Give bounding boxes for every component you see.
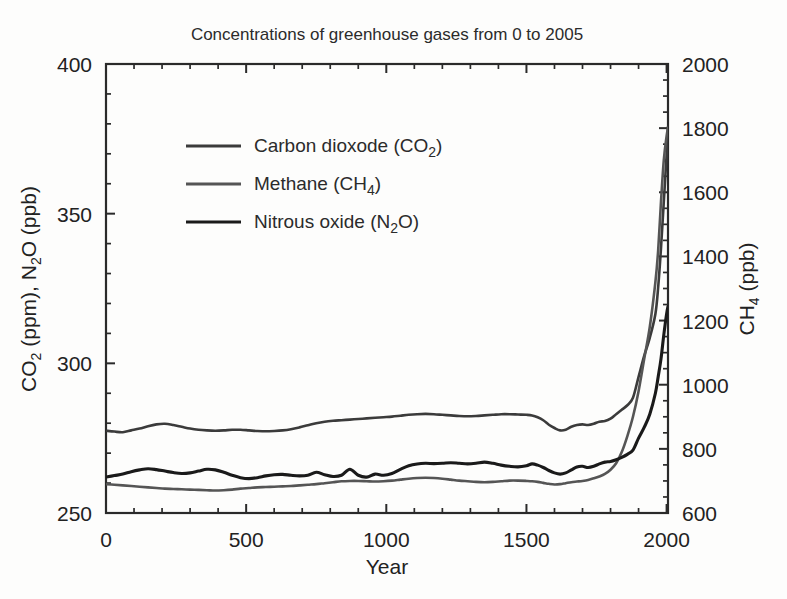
y-axis-right-label: CH4 (ppb)	[735, 243, 762, 336]
svg-text:1000: 1000	[363, 528, 410, 551]
svg-text:250: 250	[57, 502, 92, 525]
chart-page: Concentrations of greenhouse gases from …	[0, 0, 787, 599]
svg-text:600: 600	[682, 502, 717, 525]
y-axis-left-label-group: CO2 (ppm), N2O (ppb)	[17, 186, 44, 392]
greenhouse-gas-line-chart: Concentrations of greenhouse gases from …	[0, 0, 787, 599]
svg-text:2000: 2000	[643, 528, 690, 551]
x-axis-label: Year	[366, 555, 408, 578]
svg-text:350: 350	[57, 203, 92, 226]
svg-text:1600: 1600	[682, 181, 729, 204]
svg-text:1500: 1500	[503, 528, 550, 551]
y-axis-left-label: CO2 (ppm), N2O (ppb)	[17, 186, 44, 392]
svg-text:1000: 1000	[682, 374, 729, 397]
chart-title: Concentrations of greenhouse gases from …	[191, 25, 583, 44]
svg-text:0: 0	[100, 528, 112, 551]
svg-text:1800: 1800	[682, 117, 729, 140]
svg-text:500: 500	[229, 528, 264, 551]
svg-text:300: 300	[57, 352, 92, 375]
svg-text:400: 400	[57, 53, 92, 76]
svg-text:2000: 2000	[682, 53, 729, 76]
svg-text:800: 800	[682, 438, 717, 461]
svg-text:1400: 1400	[682, 245, 729, 268]
y-axis-right-label-group: CH4 (ppb)	[735, 243, 762, 336]
svg-text:1200: 1200	[682, 310, 729, 333]
